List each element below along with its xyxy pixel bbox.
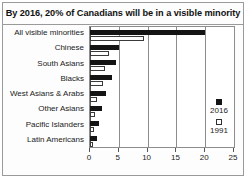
legend-label: 2016 [205, 106, 233, 115]
legend-label: 1991 [205, 126, 233, 135]
bar-1991 [90, 66, 105, 71]
category-label: All visible minorities [14, 28, 84, 37]
category-axis-labels: All visible minoritiesChineseSouth Asian… [3, 26, 87, 148]
bar-group [90, 44, 234, 59]
chart-legend: 20161991 [205, 99, 233, 139]
tick-label-0: 0 [79, 152, 99, 163]
bar-2016 [90, 45, 119, 50]
tick-label-5: 5 [108, 152, 128, 163]
bar-1991 [90, 36, 144, 41]
x-axis: 0510152025 [89, 148, 235, 168]
bar-2016 [90, 60, 116, 65]
open-square-icon [216, 119, 222, 125]
category-label: Pacific Islanders [26, 120, 84, 129]
category-label: West Asians & Arabs [10, 89, 84, 98]
tick-label-25: 25 [223, 152, 243, 163]
bar-1991 [90, 142, 93, 147]
category-label: Latin Americans [27, 135, 84, 144]
filled-square-icon [216, 99, 222, 105]
bar-1991 [90, 97, 97, 102]
bar-group [90, 74, 234, 89]
bar-1991 [90, 51, 109, 56]
legend-entry: 2016 [205, 99, 233, 115]
tick-label-15: 15 [165, 152, 185, 163]
bar-group [90, 29, 234, 44]
bar-2016 [90, 91, 106, 96]
tick-label-20: 20 [194, 152, 214, 163]
category-label: Other Asians [38, 104, 84, 113]
bar-2016 [90, 121, 99, 126]
bar-2016 [90, 106, 102, 111]
bar-1991 [90, 112, 95, 117]
title-divider [3, 24, 243, 25]
category-label: Blacks [60, 74, 84, 83]
bar-1991 [90, 127, 94, 132]
chart-card: By 2016, 20% of Canadians will be in a v… [2, 2, 244, 176]
category-label: South Asians [37, 59, 84, 68]
category-label: Chinese [55, 43, 84, 52]
bar-1991 [90, 81, 103, 86]
bar-group [90, 59, 234, 74]
gridline-25 [234, 27, 235, 147]
bar-2016 [90, 30, 205, 35]
chart-title: By 2016, 20% of Canadians will be in a v… [3, 3, 243, 24]
bar-2016 [90, 75, 112, 80]
bar-2016 [90, 136, 97, 141]
legend-entry: 1991 [205, 119, 233, 135]
tick-label-10: 10 [137, 152, 157, 163]
